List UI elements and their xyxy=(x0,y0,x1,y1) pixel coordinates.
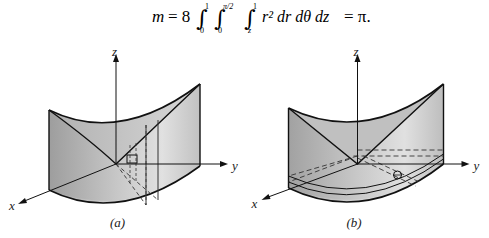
x-axis-label: x xyxy=(251,196,258,211)
y-axis-label: y xyxy=(230,158,238,173)
z-axis-label: z xyxy=(111,44,117,59)
figure-b-caption: (b) xyxy=(347,215,362,230)
equation-equals-8: = 8 xyxy=(168,7,190,26)
equation-integrand: r² dr dθ dz xyxy=(262,8,330,25)
figure-a: z y x (a) xyxy=(0,40,245,238)
figure-a-diagram: z y x (a) xyxy=(0,40,245,238)
figure-a-caption: (a) xyxy=(110,215,125,230)
equation-result: = π. xyxy=(344,7,371,26)
integral-3-upper: 1 xyxy=(253,2,257,11)
integral-2-lower: 0 xyxy=(218,26,222,35)
mass-equation: m = 8 ∫ 1 0 ∫ π/2 0 ∫ 1 z r² dr dθ dz = … xyxy=(0,0,489,36)
x-axis-label: x xyxy=(8,198,15,213)
figure-b-diagram: z y x (b) xyxy=(245,40,489,238)
integral-2-upper: π/2 xyxy=(223,2,233,11)
figure-b: z y x (b) xyxy=(245,40,489,238)
y-arrow-icon xyxy=(462,161,470,167)
equation-lhs: m xyxy=(152,7,164,26)
x-arrow-icon xyxy=(262,194,271,200)
integral-1-lower: 0 xyxy=(200,26,204,35)
z-axis-label: z xyxy=(353,44,359,59)
x-arrow-icon xyxy=(18,198,27,204)
equation-render: m = 8 ∫ 1 0 ∫ π/2 0 ∫ 1 z r² dr dθ dz = … xyxy=(0,0,489,36)
integral-1-upper: 1 xyxy=(205,2,209,11)
y-axis-label: y xyxy=(472,158,480,173)
y-arrow-icon xyxy=(220,161,228,167)
